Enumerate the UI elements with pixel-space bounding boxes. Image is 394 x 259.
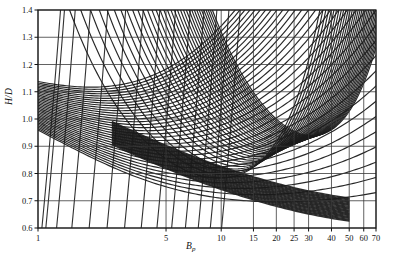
y-axis-title: H/D bbox=[4, 88, 14, 105]
x-tick-label: 30 bbox=[304, 234, 312, 243]
figure-container: 15101520253040506070 0.60.70.80.91.01.11… bbox=[0, 0, 394, 259]
x-tick-label: 10 bbox=[217, 234, 225, 243]
x-tick-label: 25 bbox=[290, 234, 298, 243]
nomograph-plot: 15101520253040506070 0.60.70.80.91.01.11… bbox=[0, 0, 394, 259]
x-tick-label: 20 bbox=[272, 234, 280, 243]
x-axis-title-subscript: p bbox=[192, 245, 196, 253]
y-tick-label: 1.1 bbox=[22, 88, 32, 97]
x-tick-label: 15 bbox=[249, 234, 257, 243]
y-tick-label: 1.0 bbox=[22, 115, 32, 124]
x-tick-label: 70 bbox=[372, 234, 380, 243]
x-axis-title: Bp bbox=[186, 241, 196, 253]
x-tick-label: 50 bbox=[345, 234, 353, 243]
y-tick-label: 1.3 bbox=[22, 33, 32, 42]
y-tick-label: 1.4 bbox=[22, 6, 33, 15]
x-tick-label: 1 bbox=[36, 234, 40, 243]
x-tick-label: 5 bbox=[164, 234, 168, 243]
y-tick-label: 0.8 bbox=[22, 170, 32, 179]
x-tick-label: 60 bbox=[360, 234, 368, 243]
y-tick-label: 1.2 bbox=[22, 61, 32, 70]
y-tick-label: 0.9 bbox=[22, 142, 32, 151]
x-tick-label: 40 bbox=[327, 234, 335, 243]
y-tick-label: 0.7 bbox=[22, 197, 32, 206]
y-tick-label: 0.6 bbox=[22, 224, 32, 233]
